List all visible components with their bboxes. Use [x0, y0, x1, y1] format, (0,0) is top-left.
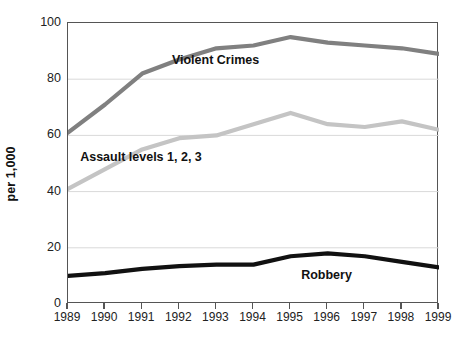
- x-tick-label: 1989: [47, 311, 87, 323]
- x-axis-tick-mark: [289, 303, 290, 309]
- x-axis-tick-mark: [400, 303, 401, 309]
- y-tick-label: 40: [25, 185, 61, 198]
- y-tick-label: 0: [25, 297, 61, 310]
- x-axis-tick-mark: [363, 303, 364, 309]
- x-tick-label: 1999: [418, 311, 458, 323]
- x-axis-tick-mark: [252, 303, 253, 309]
- x-axis-tick-mark: [178, 303, 179, 309]
- x-tick-label: 1991: [121, 311, 161, 323]
- x-tick-label: 1992: [158, 311, 198, 323]
- x-tick-label: 1998: [381, 311, 421, 323]
- x-axis-tick-mark: [326, 303, 327, 309]
- x-axis-tick-mark: [66, 303, 67, 309]
- series-label-2: Robbery: [301, 269, 352, 282]
- series-line-0: [68, 37, 439, 133]
- y-tick-label: 80: [25, 72, 61, 85]
- x-tick-label: 1997: [344, 311, 384, 323]
- x-axis-tick-mark: [141, 303, 142, 309]
- x-tick-label: 1990: [84, 311, 124, 323]
- y-axis-title-text: per 1,000: [4, 146, 18, 201]
- y-tick-label: 100: [25, 16, 61, 29]
- x-tick-label: 1993: [195, 311, 235, 323]
- y-axis-title: per 1,000: [0, 0, 22, 347]
- y-tick-label: 20: [25, 241, 61, 254]
- x-axis-tick-mark: [103, 303, 104, 309]
- x-tick-label: 1995: [270, 311, 310, 323]
- line-chart-figure: per 1,000 020406080100 19891990199119921…: [0, 0, 460, 347]
- x-axis-tick-mark: [437, 303, 438, 309]
- series-label-1: Assault levels 1, 2, 3: [80, 151, 202, 164]
- x-tick-label: 1994: [233, 311, 273, 323]
- x-tick-label: 1996: [307, 311, 347, 323]
- x-axis-tick-mark: [215, 303, 216, 309]
- series-label-0: Violent Crimes: [172, 54, 259, 67]
- series-line-2: [68, 253, 439, 275]
- y-tick-label: 60: [25, 128, 61, 141]
